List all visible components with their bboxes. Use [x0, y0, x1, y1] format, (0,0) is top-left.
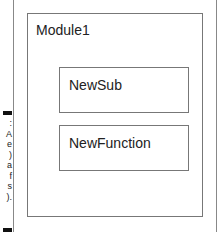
caption-fragment: e	[0, 139, 12, 150]
caption-fragment: ).	[0, 192, 12, 203]
caption-bottom-marker	[3, 228, 12, 232]
caption-fragment: f	[0, 171, 12, 182]
caption-fragment: a	[0, 160, 12, 171]
right-divider-line	[216, 0, 217, 232]
module-title: Module1	[36, 22, 90, 38]
module-box: Module1 NewSub NewFunction	[27, 13, 203, 217]
caption-fragment: )	[0, 150, 12, 161]
procedure-label: NewSub	[69, 77, 122, 93]
margin-caption: : A e ) a f s ).	[0, 118, 12, 202]
caption-top-marker	[3, 111, 12, 115]
procedure-box-newfunction: NewFunction	[59, 125, 189, 171]
caption-fragment: :	[0, 118, 12, 129]
caption-fragment: s	[0, 181, 12, 192]
left-divider-line	[13, 0, 14, 232]
procedure-label: NewFunction	[69, 135, 151, 151]
caption-fragment: A	[0, 129, 12, 140]
procedure-box-newsub: NewSub	[59, 67, 189, 113]
